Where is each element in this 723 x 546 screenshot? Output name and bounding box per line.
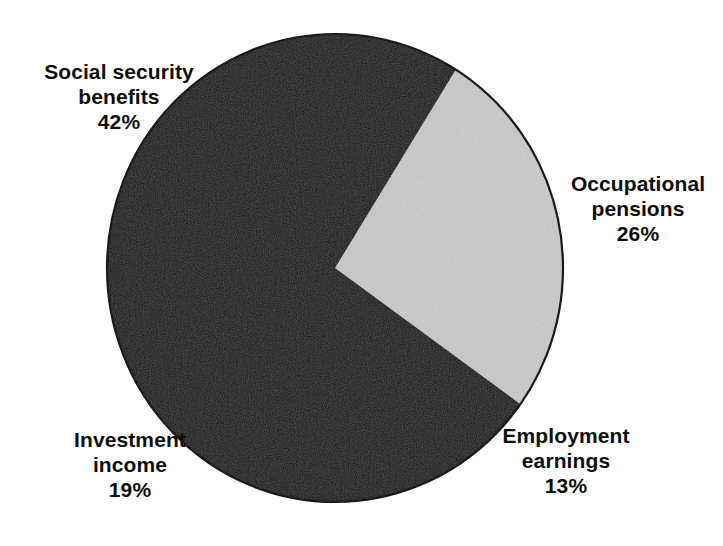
pie-label-occupational-pensions: Occupational pensions 26% — [553, 172, 723, 246]
pie-chart: Social security benefits 42% Occupationa… — [0, 0, 723, 546]
pie-label-investment-income: Investment income 19% — [40, 428, 220, 502]
pie-label-line-2: income — [40, 453, 220, 478]
pie-label-value: 42% — [14, 110, 224, 135]
pie-label-value: 19% — [40, 478, 220, 503]
pie-label-social-security-benefits: Social security benefits 42% — [14, 60, 224, 134]
pie-label-line-2: earnings — [477, 449, 655, 474]
pie-label-value: 26% — [553, 222, 723, 247]
pie-label-line-1: Occupational — [553, 172, 723, 197]
pie-label-line-1: Employment — [477, 424, 655, 449]
pie-label-line-2: benefits — [14, 85, 224, 110]
pie-label-line-1: Social security — [14, 60, 224, 85]
pie-label-line-2: pensions — [553, 197, 723, 222]
pie-label-line-1: Investment — [40, 428, 220, 453]
pie-label-employment-earnings: Employment earnings 13% — [477, 424, 655, 498]
pie-label-value: 13% — [477, 474, 655, 499]
